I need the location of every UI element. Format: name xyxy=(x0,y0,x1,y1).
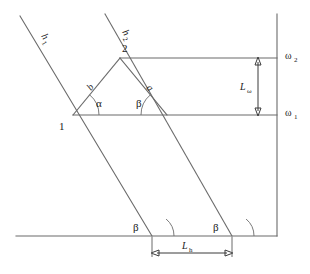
angle-arc-beta-right xyxy=(246,219,254,236)
label-omega-2-group: ω 2 xyxy=(285,50,298,64)
angle-arc-beta-left xyxy=(166,219,174,236)
label-omega-1-subscript: 1 xyxy=(294,113,298,121)
label-l-omega-group: L ω xyxy=(239,81,252,95)
label-side-a: a xyxy=(144,82,156,93)
label-h1-group: h 1 xyxy=(37,31,54,47)
label-l-h: L xyxy=(181,240,188,251)
geometry-diagram-canvas: h 1 h 2 1 2 b a α β β β ω 2 xyxy=(0,0,310,274)
line-h1 xyxy=(20,16,152,236)
label-omega-1: ω xyxy=(285,107,292,118)
label-angle-beta-triangle: β xyxy=(136,97,142,109)
label-h1-subscript: 1 xyxy=(40,40,49,48)
label-angle-beta-right: β xyxy=(213,221,219,233)
label-omega-1-group: ω 1 xyxy=(285,107,298,121)
geometry-figure: h 1 h 2 1 2 b a α β β β ω 2 xyxy=(0,0,310,274)
label-l-h-group: L h xyxy=(181,240,193,254)
label-omega-2-subscript: 2 xyxy=(294,56,298,64)
label-side-b-group: b xyxy=(84,81,96,92)
label-side-b: b xyxy=(84,81,96,92)
label-l-omega: L xyxy=(239,81,246,92)
label-l-omega-subscript: ω xyxy=(247,87,252,95)
label-angle-alpha: α xyxy=(96,97,102,109)
label-omega-2: ω xyxy=(285,50,292,61)
label-vertex-1: 1 xyxy=(59,120,65,132)
label-vertex-2: 2 xyxy=(122,42,128,54)
label-side-a-group: a xyxy=(144,82,156,93)
angle-arc-beta-triangle xyxy=(141,95,150,115)
triangle-side-a xyxy=(120,58,167,115)
label-l-h-subscript: h xyxy=(189,246,193,254)
label-angle-beta-left: β xyxy=(133,221,139,233)
